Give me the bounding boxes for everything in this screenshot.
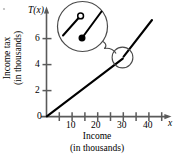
- y-tick-label-2: 2: [35, 86, 40, 96]
- y-axis-caption-line-1: Income tax: [2, 24, 13, 92]
- y-axis-caption-line-2: (in thousands): [13, 24, 24, 92]
- x-axis-caption-line-1: Income: [42, 130, 152, 142]
- x-axis-caption-line-2: (in thousands): [42, 142, 152, 154]
- x-axis-symbol-label: x: [168, 119, 172, 129]
- magnifier-bubble: [58, 2, 108, 52]
- magnifier-bubble-outline: [58, 2, 108, 52]
- detail-region-circle: [112, 47, 133, 68]
- origin-label: 0: [37, 112, 42, 122]
- y-axis-caption: Income tax (in thousands): [2, 24, 24, 92]
- tax-line-lower-segment: [47, 59, 123, 117]
- closed-endpoint-dot: [79, 35, 85, 41]
- y-tick-label-6: 6: [35, 34, 40, 44]
- tax-line-upper-segment: [124, 20, 152, 57]
- x-axis-caption: Income (in thousands): [42, 130, 152, 154]
- scan-artifact-dot: [3, 8, 5, 10]
- y-axis-arrow: [44, 7, 49, 14]
- open-endpoint-circle: [78, 13, 84, 19]
- y-tick-label-4: 4: [35, 60, 40, 70]
- y-axis-symbol-label: T(x): [28, 6, 44, 16]
- income-tax-graph-figure: T(x) x 0 2 4 6 10 20 30 40 Income tax (i…: [0, 0, 180, 163]
